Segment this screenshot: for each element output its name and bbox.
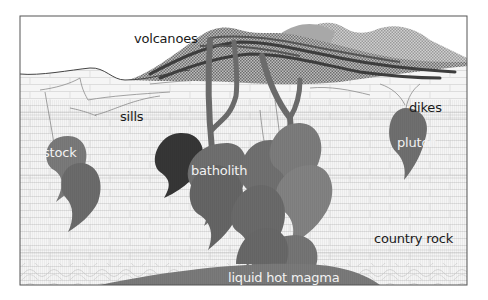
- label-volcanoes: volcanoes: [134, 32, 198, 45]
- label-pluton: pluton: [397, 136, 437, 149]
- label-batholith: batholith: [191, 164, 247, 177]
- label-sills: sills: [120, 110, 143, 123]
- label-liquid-hot-magma: liquid hot magma: [228, 271, 339, 284]
- label-dikes: dikes: [409, 101, 442, 114]
- label-stock: stock: [43, 146, 77, 159]
- label-country-rock: country rock: [374, 232, 453, 245]
- geology-diagram: volcanoes sills dikes stock batholith pl…: [0, 0, 488, 300]
